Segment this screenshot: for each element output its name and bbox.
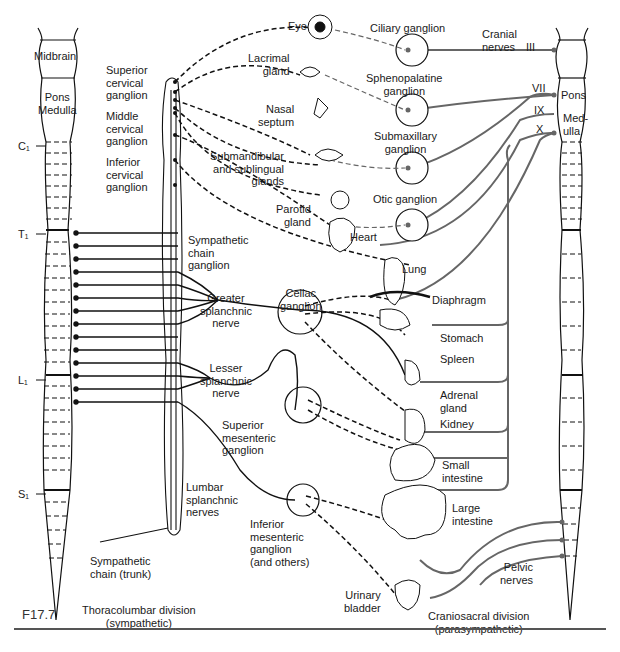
- label-thoracolumbar-division: Thoracolumbar division (sympathetic): [82, 604, 196, 629]
- label-greater-splanchnic-nerve: Greater splanchnic nerve: [200, 292, 252, 330]
- left-cord-segments: [44, 142, 72, 558]
- adrenal-kidney-icon: [405, 409, 425, 443]
- label-submandibular-glands: Submandibular and sublingual glands: [210, 150, 284, 188]
- label-superior-cervical-ganglion: Superior cervical ganglion: [106, 64, 148, 102]
- label-medulla-right: Med- ulla: [563, 112, 588, 137]
- small-intestine-icon: [390, 444, 435, 480]
- stomach-icon: [380, 309, 410, 330]
- sympathetic-chain: [100, 78, 183, 542]
- right-cord-segments: [562, 142, 582, 556]
- label-nerve-iii: III: [526, 41, 535, 54]
- label-large-intestine: Large intestine: [452, 502, 493, 527]
- label-lumbar-splanchnic-nerves: Lumbar splanchnic nerves: [186, 481, 238, 519]
- segment-t1: T₁: [18, 228, 28, 241]
- bladder-icon: [395, 580, 420, 610]
- label-adrenal-gland: Adrenal gland: [440, 389, 478, 414]
- label-spleen: Spleen: [440, 353, 474, 366]
- segment-c1: C₁: [18, 140, 30, 153]
- label-craniosacral-division: Craniosacral division (parasympathetic): [428, 610, 530, 635]
- label-inferior-mesenteric-ganglion: Inferior mesenteric ganglion (and others…: [250, 518, 309, 568]
- sympathetic-ganglia: [278, 290, 322, 516]
- label-heart: Heart: [350, 231, 377, 244]
- label-urinary-bladder: Urinary bladder: [344, 589, 381, 614]
- label-nerve-vii: VII: [532, 82, 545, 95]
- divider: [14, 628, 606, 630]
- label-stomach: Stomach: [440, 332, 483, 345]
- label-eye: Eye: [288, 20, 307, 33]
- label-pelvic-nerves: Pelvic nerves: [500, 561, 533, 586]
- label-parotid-gland: Parotid gland: [276, 203, 311, 228]
- label-lacrimal-gland: Lacrimal gland: [248, 52, 290, 77]
- label-superior-mesenteric-ganglion: Superior mesenteric ganglion: [222, 419, 276, 457]
- label-small-intestine: Small intestine: [442, 459, 483, 484]
- label-inferior-cervical-ganglion: Inferior cervical ganglion: [106, 156, 148, 194]
- large-intestine-icon: [382, 485, 446, 539]
- label-sympathetic-chain-trunk: Sympathetic chain (trunk): [90, 555, 151, 580]
- label-lung: Lung: [402, 263, 426, 276]
- label-sphenopalatine-ganglion: Sphenopalatine ganglion: [366, 72, 442, 97]
- figure-id: F17.7: [22, 607, 55, 622]
- label-middle-cervical-ganglion: Middle cervical ganglion: [106, 110, 148, 148]
- label-nasal-septum: Nasal septum: [258, 103, 294, 128]
- nose-icon: [314, 98, 328, 118]
- label-cranial-nerves: Cranial nerves: [482, 28, 517, 53]
- segment-s1: S₁: [18, 488, 29, 501]
- label-submaxillary-ganglion: Submaxillary ganglion: [374, 130, 437, 155]
- label-celiac-ganglion: Celiac ganglion: [280, 287, 322, 312]
- label-pons-right: Pons: [561, 89, 586, 102]
- label-sympathetic-chain-ganglion: Sympathetic chain ganglion: [188, 234, 249, 272]
- lacrimal-gland-icon: [300, 67, 320, 77]
- label-lesser-splanchnic-nerve: Lesser splanchnic nerve: [200, 362, 252, 400]
- label-otic-ganglion: Otic ganglion: [373, 193, 437, 206]
- label-ciliary-ganglion: Ciliary ganglion: [370, 22, 445, 35]
- segment-l1: L₁: [18, 374, 28, 387]
- label-pons-medulla: Pons Medulla: [38, 91, 77, 116]
- label-nerve-x: X: [536, 123, 543, 136]
- label-diaphragm: Diaphragm: [432, 294, 486, 307]
- spleen-icon: [405, 360, 420, 385]
- label-nerve-ix: IX: [534, 104, 544, 117]
- parotid-gland-icon: [331, 191, 349, 209]
- left-spinal-cord: [38, 28, 78, 620]
- label-kidney: Kidney: [440, 418, 474, 431]
- submandibular-gland-icon: [315, 149, 343, 161]
- label-midbrain: Midbrain: [34, 50, 76, 63]
